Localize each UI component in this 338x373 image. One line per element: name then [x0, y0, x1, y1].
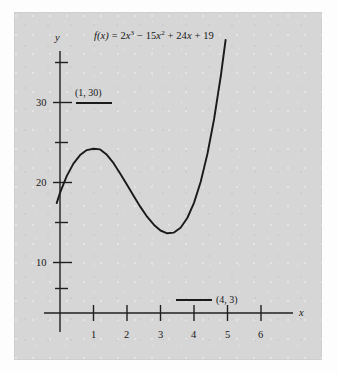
- equation-mid: − 15: [134, 30, 156, 41]
- y-axis-major-ticks: [53, 103, 72, 263]
- y-tick-label-10: 10: [36, 258, 47, 269]
- y-axis-label: y: [55, 33, 60, 44]
- function-curve: [57, 40, 226, 233]
- x-tick-label-1: 1: [91, 330, 96, 341]
- plot-canvas: [0, 0, 338, 373]
- x-tick-label-3: 3: [158, 330, 163, 341]
- x-tick-label-4: 4: [191, 330, 196, 341]
- x-tick-label-5: 5: [225, 330, 230, 341]
- equation-fx: f(x): [94, 30, 109, 41]
- annotation-local-maximum: (1, 30): [75, 88, 102, 98]
- y-tick-label-20: 20: [36, 178, 47, 189]
- equation-constant: + 19: [192, 30, 214, 41]
- figure-page: f(x) = 2x3 − 15x2 + 24x + 19 y x 10 20 3…: [0, 0, 338, 373]
- x-tick-label-6: 6: [258, 330, 263, 341]
- x-tick-label-2: 2: [124, 330, 129, 341]
- x-axis-label: x: [299, 308, 304, 319]
- equation-equals: = 2: [109, 30, 126, 41]
- equation-tail: + 24: [165, 30, 187, 41]
- function-equation: f(x) = 2x3 − 15x2 + 24x + 19: [94, 31, 214, 42]
- annotation-local-minimum: (4, 3): [216, 295, 238, 305]
- y-tick-label-30: 30: [36, 98, 47, 109]
